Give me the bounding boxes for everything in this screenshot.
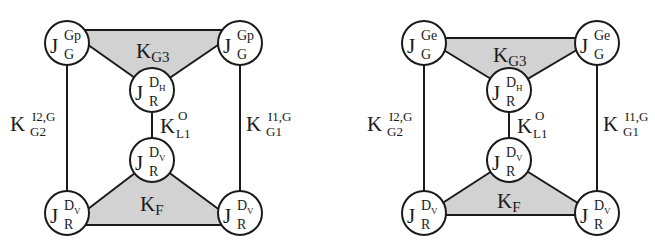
svg-text:Ge: Ge: [421, 28, 437, 43]
svg-text:V: V: [431, 206, 438, 216]
svg-text:V: V: [604, 206, 611, 216]
svg-text:D: D: [149, 75, 159, 90]
svg-text:K: K: [10, 112, 25, 136]
svg-text:J: J: [492, 151, 500, 175]
svg-text:K: K: [160, 114, 175, 138]
label-kg2: K I2,G G2: [10, 109, 55, 139]
svg-text:H: H: [516, 83, 523, 93]
svg-text:D: D: [594, 198, 604, 213]
svg-text:J: J: [135, 151, 143, 175]
svg-text:G1: G1: [623, 124, 639, 139]
svg-text:G: G: [237, 47, 247, 62]
svg-text:V: V: [247, 206, 254, 216]
svg-text:J: J: [492, 81, 500, 105]
svg-text:H: H: [159, 83, 166, 93]
svg-text:R: R: [149, 164, 159, 179]
exchange-coupling-diagrams: KG3 KF K O L1 K I2,G G2 K I1,G G1 J Gp G: [0, 0, 655, 247]
svg-text:I2,G: I2,G: [389, 109, 412, 124]
svg-text:D: D: [64, 198, 74, 213]
svg-text:D: D: [506, 75, 516, 90]
svg-text:V: V: [516, 153, 523, 163]
svg-text:J: J: [50, 204, 58, 228]
svg-text:K: K: [367, 112, 382, 136]
svg-text:O: O: [535, 108, 544, 123]
svg-text:G2: G2: [30, 124, 46, 139]
svg-text:R: R: [506, 164, 516, 179]
node-top-right: J Gp G: [218, 21, 262, 65]
svg-text:L1: L1: [533, 126, 547, 141]
svg-text:G2: G2: [387, 124, 403, 139]
svg-text:D: D: [237, 198, 247, 213]
label-kl1: K O L1: [160, 108, 190, 141]
node-bottom-left: J D V R: [402, 191, 446, 235]
svg-text:J: J: [135, 81, 143, 105]
svg-text:Gp: Gp: [237, 28, 254, 43]
node-mid-top: J D H R: [130, 68, 174, 112]
svg-text:J: J: [407, 34, 415, 58]
svg-text:G1: G1: [266, 124, 282, 139]
node-bottom-right: J D V R: [575, 191, 619, 235]
svg-text:K: K: [603, 112, 618, 136]
node-mid-bottom: J D V R: [130, 138, 174, 182]
node-top-left: J Gp G: [45, 21, 89, 65]
svg-text:R: R: [506, 94, 516, 109]
svg-text:R: R: [594, 217, 604, 232]
svg-text:D: D: [506, 145, 516, 160]
svg-text:G: G: [421, 47, 431, 62]
node-bottom-left: J D V R: [45, 191, 89, 235]
svg-text:Ge: Ge: [594, 28, 610, 43]
svg-text:G: G: [594, 47, 604, 62]
node-top-right: J Ge G: [575, 21, 619, 65]
svg-text:J: J: [50, 34, 58, 58]
svg-text:R: R: [64, 217, 74, 232]
svg-text:J: J: [580, 204, 588, 228]
diagram-right: KG3 KF K O L1 K I2,G G2 K I1,G G1 J Ge G: [367, 21, 648, 235]
label-kg2: K I2,G G2: [367, 109, 412, 139]
node-top-left: J Ge G: [402, 21, 446, 65]
label-kg1: K I1,G G1: [246, 109, 291, 139]
diagram-left: KG3 KF K O L1 K I2,G G2 K I1,G G1 J Gp G: [10, 21, 291, 235]
label-kg1: K I1,G G1: [603, 109, 648, 139]
svg-text:V: V: [159, 153, 166, 163]
svg-text:O: O: [178, 108, 187, 123]
svg-text:D: D: [149, 145, 159, 160]
node-mid-top: J D H R: [487, 68, 531, 112]
svg-text:D: D: [421, 198, 431, 213]
svg-text:J: J: [223, 34, 231, 58]
svg-text:K: K: [246, 112, 261, 136]
svg-text:R: R: [421, 217, 431, 232]
svg-text:R: R: [237, 217, 247, 232]
svg-text:L1: L1: [176, 126, 190, 141]
svg-text:Gp: Gp: [64, 28, 81, 43]
node-mid-bottom: J D V R: [487, 138, 531, 182]
svg-text:V: V: [74, 206, 81, 216]
node-bottom-right: J D V R: [218, 191, 262, 235]
svg-text:I1,G: I1,G: [268, 109, 291, 124]
label-kl1: K O L1: [517, 108, 547, 141]
svg-text:J: J: [407, 204, 415, 228]
svg-text:J: J: [223, 204, 231, 228]
svg-text:I2,G: I2,G: [32, 109, 55, 124]
svg-text:I1,G: I1,G: [625, 109, 648, 124]
svg-text:J: J: [580, 34, 588, 58]
svg-text:K: K: [517, 114, 532, 138]
svg-text:R: R: [149, 94, 159, 109]
svg-text:G: G: [64, 47, 74, 62]
